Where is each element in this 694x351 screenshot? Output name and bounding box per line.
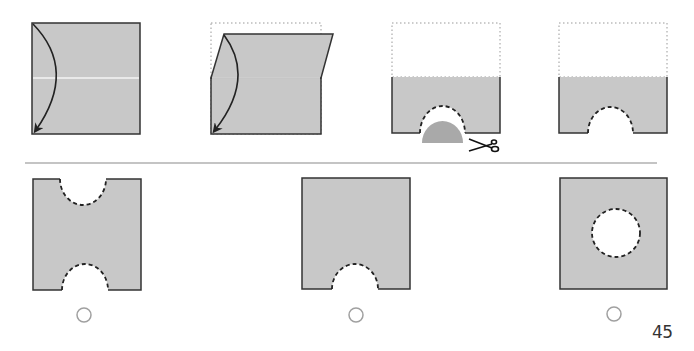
option-b-figure bbox=[302, 178, 410, 289]
step-4-figure bbox=[559, 23, 667, 133]
hole-cut-line bbox=[592, 209, 640, 257]
folding-flap bbox=[211, 34, 333, 78]
option-a-radio[interactable] bbox=[77, 308, 91, 322]
original-outline bbox=[392, 23, 500, 77]
option-c-figure bbox=[560, 178, 667, 289]
step-1-figure bbox=[32, 23, 140, 134]
cut-piece bbox=[422, 121, 463, 143]
step-3-figure bbox=[392, 23, 500, 152]
original-outline bbox=[559, 23, 667, 77]
puzzle-canvas bbox=[0, 0, 694, 351]
option-c-radio[interactable] bbox=[607, 307, 621, 321]
page-number: 45 bbox=[652, 322, 673, 342]
step-2-figure bbox=[211, 23, 333, 134]
option-a-figure bbox=[33, 179, 141, 290]
scissors-icon bbox=[469, 139, 499, 152]
option-b-radio[interactable] bbox=[349, 308, 363, 322]
